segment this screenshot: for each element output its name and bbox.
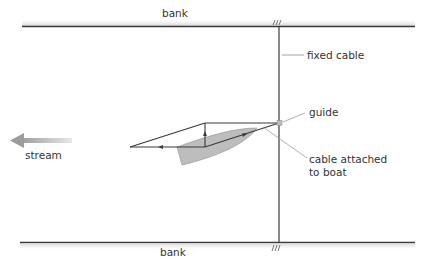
stream-label: stream	[25, 149, 62, 161]
arrowhead-up-icon	[203, 131, 207, 136]
arrowhead-left-icon	[158, 145, 163, 149]
cable-attached-label-line2: to boat	[309, 166, 347, 178]
bank-top-label: bank	[162, 7, 189, 19]
fixed-cable-label: fixed cable	[307, 49, 364, 61]
stream-arrow-icon	[10, 133, 72, 148]
guide-label: guide	[309, 106, 338, 118]
bank-bottom	[20, 243, 415, 250]
guide-leader	[283, 113, 305, 122]
bank-bottom-label: bank	[160, 246, 187, 258]
bank-top	[22, 20, 415, 27]
ferry-diagram: bank bank fixed cable stream	[0, 0, 427, 268]
guide-block	[277, 121, 282, 126]
cable-attached-leader	[263, 127, 307, 158]
cable-attached-label-line1: cable attached	[309, 153, 387, 165]
